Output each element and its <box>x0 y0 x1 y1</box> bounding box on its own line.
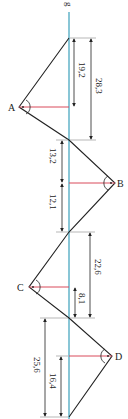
dim-label-19-2: 19,2 <box>77 62 87 78</box>
point-label-A: A <box>8 102 16 113</box>
point-label-D: D <box>115 351 122 362</box>
survey-diagram: g A B C D 19,2 28,3 13 <box>0 0 128 419</box>
dim-label-25-6: 25,6 <box>32 357 42 373</box>
dim-label-12-1: 12,1 <box>48 194 58 210</box>
dim-label-8-1: 8,1 <box>77 293 87 304</box>
point-label-C: C <box>17 282 24 293</box>
dim-label-28-3: 28,3 <box>94 78 104 94</box>
dim-label-13-2: 13,2 <box>48 148 58 164</box>
point-label-B: B <box>117 178 124 189</box>
baseline-label: g <box>64 2 74 7</box>
dim-label-22-6: 22,6 <box>93 259 103 275</box>
dim-label-16-4: 16,4 <box>48 373 58 389</box>
